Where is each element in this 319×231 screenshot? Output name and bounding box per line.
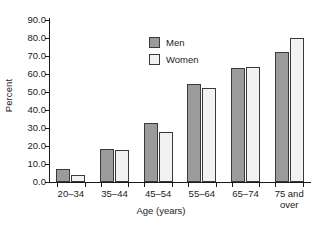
x-axis-tick-label-line: 75 and	[275, 188, 304, 199]
x-axis-tick-mark	[144, 183, 145, 187]
y-axis-tick-label: 70.0	[16, 51, 46, 61]
x-axis-tick-label: 55–64	[189, 188, 215, 199]
x-axis-tick-mark	[275, 183, 276, 187]
bar-men-0	[56, 169, 70, 182]
bar-men-5	[275, 52, 289, 182]
legend-label: Women	[166, 55, 199, 65]
y-axis-title-text: Percent	[4, 78, 15, 111]
bar-women-3	[202, 88, 216, 182]
x-axis-tick-label-line: 35–44	[101, 188, 127, 199]
y-axis-tick-label: 50.0	[16, 87, 46, 97]
bar-men-3	[187, 84, 201, 182]
x-axis-tick-label: 75 andover	[275, 188, 304, 210]
x-axis-line	[49, 182, 311, 183]
x-axis-tick-mark	[128, 183, 129, 187]
x-axis-tick-label-line: 45–54	[145, 188, 171, 199]
x-axis-tick-mark	[216, 183, 217, 187]
x-axis-tick-label: 20–34	[58, 188, 84, 199]
x-axis-tick-label: 65–74	[232, 188, 258, 199]
legend-item-women: Women	[149, 54, 199, 65]
x-axis-tick-label-line: over	[275, 199, 304, 210]
x-axis-title: Age (years)	[49, 205, 273, 216]
y-axis-tick-label: 90.0	[16, 15, 46, 25]
y-axis-tick-label: 30.0	[16, 123, 46, 133]
y-axis-tick-label: 60.0	[16, 69, 46, 79]
x-axis-tick-mark	[85, 183, 86, 187]
bar-women-4	[246, 67, 260, 182]
bar-chart: Percent 0.010.020.030.040.050.060.070.08…	[0, 0, 319, 231]
x-axis-tick-label: 45–54	[145, 188, 171, 199]
x-axis-tick-mark	[259, 183, 260, 187]
y-axis-tick-labels: 0.010.020.030.040.050.060.070.080.090.0	[16, 14, 46, 188]
bar-men-2	[144, 123, 158, 182]
x-axis-tick-label: 35–44	[101, 188, 127, 199]
bar-women-0	[71, 175, 85, 182]
y-axis-tick-label: 80.0	[16, 33, 46, 43]
y-axis-tick-label: 10.0	[16, 159, 46, 169]
bar-women-1	[115, 150, 129, 182]
legend: MenWomen	[149, 37, 199, 65]
x-axis-tick-mark	[101, 183, 102, 187]
y-axis-tick-label: 40.0	[16, 105, 46, 115]
y-axis-tick-mark	[45, 182, 49, 183]
bar-men-4	[231, 68, 245, 182]
x-axis-tick-mark	[57, 183, 58, 187]
x-axis-tick-mark	[232, 183, 233, 187]
y-axis-tick-label: 0.0	[16, 177, 46, 187]
legend-label: Men	[166, 38, 184, 48]
men-swatch-icon	[149, 37, 160, 48]
x-axis-tick-mark	[188, 183, 189, 187]
x-axis-tick-label-line: 20–34	[58, 188, 84, 199]
plot-area: MenWomen	[49, 20, 311, 182]
x-axis-tick-mark	[303, 183, 304, 187]
bar-women-2	[159, 132, 173, 182]
women-swatch-icon	[149, 54, 160, 65]
x-axis-tick-mark	[172, 183, 173, 187]
x-axis-tick-label-line: 65–74	[232, 188, 258, 199]
y-axis-tick-label: 20.0	[16, 141, 46, 151]
legend-item-men: Men	[149, 37, 199, 48]
x-axis-tick-label-line: 55–64	[189, 188, 215, 199]
bar-men-1	[100, 149, 114, 182]
bar-women-5	[290, 38, 304, 182]
